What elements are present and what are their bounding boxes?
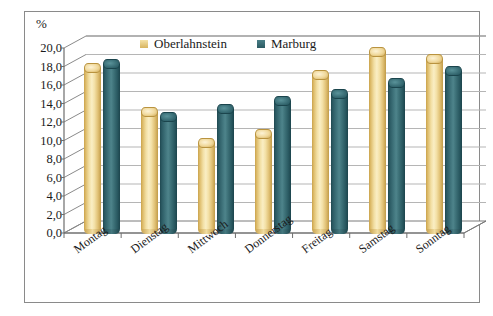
bar-body — [445, 71, 462, 229]
bar-top-ellipse — [445, 66, 462, 76]
bar-mittwoch-oberlahnstein — [198, 138, 215, 229]
legend-label-oberlahnstein: Oberlahnstein — [154, 36, 227, 52]
bar-dienstag-oberlahnstein — [141, 107, 158, 229]
bar-mittwoch-marburg — [217, 104, 234, 229]
bar-montag-oberlahnstein — [84, 63, 101, 229]
bar-body — [312, 75, 329, 229]
bar-top-ellipse — [141, 107, 158, 117]
bar-top-ellipse — [160, 112, 177, 122]
bar-body — [84, 68, 101, 229]
chart-container: % 0,02,04,06,08,010,012,014,016,018,020,… — [0, 0, 493, 316]
bar-freitag-oberlahnstein — [312, 70, 329, 229]
bar-top-ellipse — [217, 104, 234, 114]
bar-dienstag-marburg — [160, 112, 177, 229]
legend-swatch-icon-marburg — [257, 40, 265, 48]
bar-body — [198, 143, 215, 229]
bar-top-ellipse — [274, 96, 291, 106]
bar-top-ellipse — [369, 47, 386, 57]
bar-top-ellipse — [103, 59, 120, 69]
bar-montag-marburg — [103, 59, 120, 229]
legend-label-marburg: Marburg — [271, 36, 316, 52]
bar-top-ellipse — [388, 78, 405, 88]
bar-top-ellipse — [255, 129, 272, 139]
bar-body — [217, 109, 234, 229]
bar-top-ellipse — [198, 138, 215, 148]
bar-body — [255, 134, 272, 229]
bar-top-ellipse — [331, 89, 348, 99]
legend-item-marburg: Marburg — [257, 36, 316, 52]
bar-body — [160, 117, 177, 229]
bar-body — [141, 112, 158, 229]
bar-samstag-marburg — [388, 78, 405, 229]
bar-top-ellipse — [312, 70, 329, 80]
bar-donnerstag-oberlahnstein — [255, 129, 272, 229]
bar-body — [426, 59, 443, 229]
bar-body — [388, 83, 405, 229]
bar-sonntag-oberlahnstein — [426, 54, 443, 229]
bar-donnerstag-marburg — [274, 96, 291, 229]
chart-legend: Oberlahnstein Marburg — [140, 36, 316, 52]
bar-sonntag-marburg — [445, 66, 462, 229]
legend-item-oberlahnstein: Oberlahnstein — [140, 36, 227, 52]
bar-body — [103, 64, 120, 229]
bar-body — [369, 52, 386, 229]
bar-body — [331, 94, 348, 229]
legend-swatch-icon-oberlahnstein — [140, 40, 148, 48]
bar-freitag-marburg — [331, 89, 348, 229]
bar-samstag-oberlahnstein — [369, 47, 386, 229]
bar-body — [274, 101, 291, 229]
bar-top-ellipse — [426, 54, 443, 64]
bar-top-ellipse — [84, 63, 101, 73]
